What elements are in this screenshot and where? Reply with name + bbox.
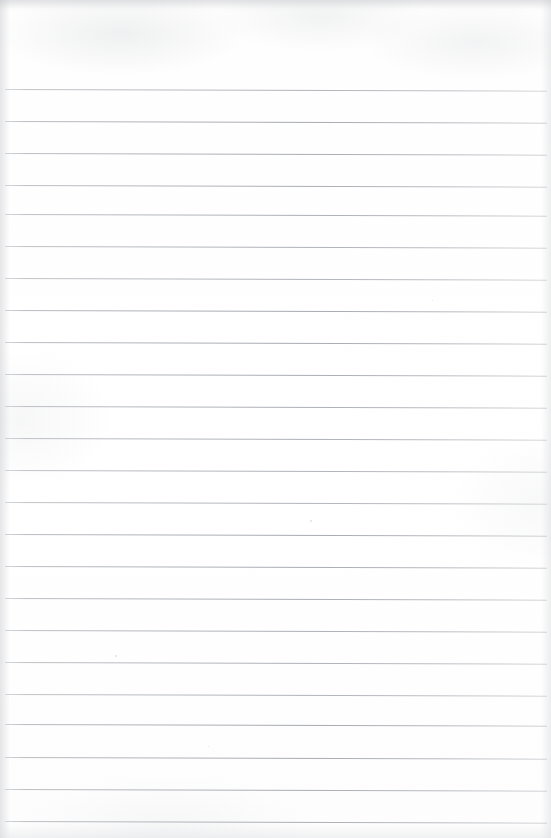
scan-speck: [115, 655, 117, 657]
scan-artifacts-layer: [0, 0, 551, 838]
scan-speck: [432, 300, 433, 301]
scan-speck: [208, 746, 209, 747]
scan-speck: [310, 520, 312, 522]
scanned-page: [0, 0, 551, 838]
